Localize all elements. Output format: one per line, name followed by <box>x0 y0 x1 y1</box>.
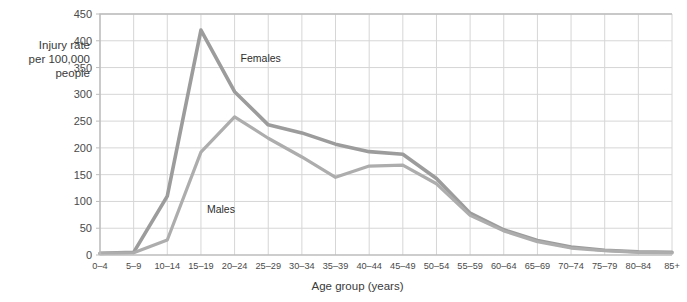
series-line-females <box>100 30 672 253</box>
svg-text:35–39: 35–39 <box>323 261 349 271</box>
svg-text:20–24: 20–24 <box>222 261 248 271</box>
svg-text:50: 50 <box>80 222 92 234</box>
svg-text:150: 150 <box>74 169 92 181</box>
plot-frame <box>100 14 672 255</box>
y-axis-ticks: 050100150200250300350400450 <box>74 8 100 261</box>
svg-text:45–49: 45–49 <box>390 261 416 271</box>
svg-text:60–64: 60–64 <box>491 261 517 271</box>
svg-text:15–19: 15–19 <box>188 261 214 271</box>
chart-plot-area: 050100150200250300350400450 0–45–910–141… <box>0 0 687 302</box>
x-axis-ticks: 0–45–910–1415–1920–2425–2930–3435–3940–4… <box>92 261 679 271</box>
svg-text:400: 400 <box>74 35 92 47</box>
svg-text:65–69: 65–69 <box>525 261 551 271</box>
svg-text:70–74: 70–74 <box>558 261 584 271</box>
svg-text:25–29: 25–29 <box>255 261 281 271</box>
svg-text:250: 250 <box>74 115 92 127</box>
series-line-males <box>100 117 672 254</box>
svg-text:0–4: 0–4 <box>92 261 107 271</box>
svg-text:30–34: 30–34 <box>289 261 315 271</box>
svg-text:5–9: 5–9 <box>126 261 141 271</box>
svg-text:85+: 85+ <box>664 261 680 271</box>
data-series-layer <box>100 30 672 253</box>
vertical-gridlines <box>100 14 672 255</box>
injury-rate-line-chart: Injury rate per 100,000 people Age group… <box>0 0 687 302</box>
svg-text:100: 100 <box>74 195 92 207</box>
svg-text:80–84: 80–84 <box>626 261 652 271</box>
svg-text:450: 450 <box>74 8 92 20</box>
svg-text:75–79: 75–79 <box>592 261 618 271</box>
svg-text:40–44: 40–44 <box>356 261 382 271</box>
svg-text:55–59: 55–59 <box>457 261 483 271</box>
svg-text:50–54: 50–54 <box>424 261 450 271</box>
svg-text:300: 300 <box>74 88 92 100</box>
svg-text:350: 350 <box>74 62 92 74</box>
svg-text:10–14: 10–14 <box>155 261 181 271</box>
svg-text:200: 200 <box>74 142 92 154</box>
annotation-females: Females <box>241 52 281 64</box>
annotation-males: Males <box>207 203 235 215</box>
svg-text:0: 0 <box>86 249 92 261</box>
